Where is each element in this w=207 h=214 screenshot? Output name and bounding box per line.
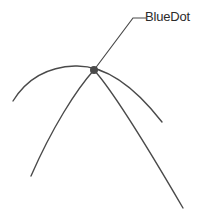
curve-wide-flat-parabola: [13, 66, 162, 122]
diagram-canvas: BlueDot: [0, 0, 207, 214]
diagram-svg: [0, 0, 207, 214]
callout-leader-line: [94, 18, 146, 70]
curve-narrow-steep-parabola: [31, 70, 183, 208]
blue-dot-marker[interactable]: [90, 66, 98, 74]
blue-dot-label: BlueDot: [145, 9, 190, 24]
